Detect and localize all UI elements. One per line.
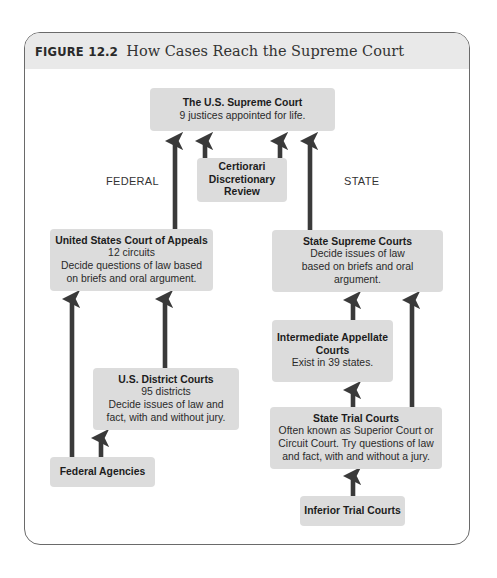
node-certiorari: Certiorari Discretionary Review	[197, 158, 287, 202]
node-line: and fact, with and without a jury.	[282, 451, 430, 464]
node-title: U.S. District Courts	[118, 374, 213, 387]
node-federal-agencies: Federal Agencies	[50, 457, 155, 487]
node-line: Decide questions of law based	[61, 260, 202, 273]
node-title: The U.S. Supreme Court	[183, 97, 303, 110]
federal-label: FEDERAL	[106, 175, 159, 187]
node-title: Inferior Trial Courts	[304, 505, 400, 518]
node-inferior-trial: Inferior Trial Courts	[300, 496, 405, 526]
node-line: 9 justices appointed for life.	[180, 110, 306, 123]
node-line: Exist in 39 states.	[292, 357, 373, 370]
node-title: Courts	[316, 345, 349, 358]
node-line: Often known as Superior Court or	[279, 425, 434, 438]
node-court-of-appeals: United States Court of Appeals 12 circui…	[50, 229, 213, 291]
node-title: Federal Agencies	[60, 466, 146, 479]
node-title: State Trial Courts	[313, 413, 399, 426]
node-line: based on briefs and oral	[302, 261, 414, 274]
figure-header: FIGURE 12.2 How Cases Reach the Supreme …	[25, 33, 469, 69]
node-title: Discretionary	[209, 174, 275, 187]
figure-title-text: How Cases Reach the Supreme Court	[126, 43, 404, 59]
node-district-courts: U.S. District Courts 95 districts Decide…	[93, 368, 239, 430]
node-title: Intermediate Appellate	[277, 332, 388, 345]
node-intermediate-appellate: Intermediate Appellate Courts Exist in 3…	[272, 320, 393, 382]
node-line: on briefs and oral argument.	[67, 273, 197, 286]
node-title: Review	[224, 186, 260, 199]
node-title: United States Court of Appeals	[55, 235, 208, 248]
figure-label: FIGURE	[35, 45, 84, 59]
state-label: STATE	[344, 175, 379, 187]
node-line: Circuit Court. Try questions of law	[278, 438, 433, 451]
node-line: Decide issues of law	[310, 248, 405, 261]
node-line: fact, with and without jury.	[107, 412, 226, 425]
node-line: Decide issues of law and	[109, 399, 224, 412]
node-line: 95 districts	[141, 386, 191, 399]
figure-title: FIGURE 12.2 How Cases Reach the Supreme …	[35, 42, 404, 60]
node-line: 12 circuits	[108, 247, 155, 260]
node-title: State Supreme Courts	[303, 236, 412, 249]
node-line: argument.	[334, 274, 381, 287]
node-supreme-court: The U.S. Supreme Court 9 justices appoin…	[150, 88, 335, 131]
node-state-supreme: State Supreme Courts Decide issues of la…	[272, 230, 443, 292]
figure-number: 12.2	[88, 45, 118, 59]
node-state-trial: State Trial Courts Often known as Superi…	[270, 407, 442, 469]
node-title: Certiorari	[219, 161, 266, 174]
